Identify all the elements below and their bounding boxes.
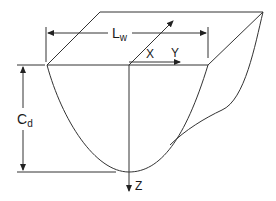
- back-parabola-curve: [170, 12, 263, 145]
- width-label: Lw: [112, 25, 128, 43]
- axis-x-label: X: [146, 47, 154, 61]
- front-parabola-curve: [47, 65, 208, 172]
- axis-y-label: Y: [171, 46, 179, 60]
- depth-label: Cd: [17, 111, 33, 129]
- basin-diagram: Lw Cd X Y Z: [0, 0, 276, 201]
- axis-z-label: Z: [135, 179, 142, 193]
